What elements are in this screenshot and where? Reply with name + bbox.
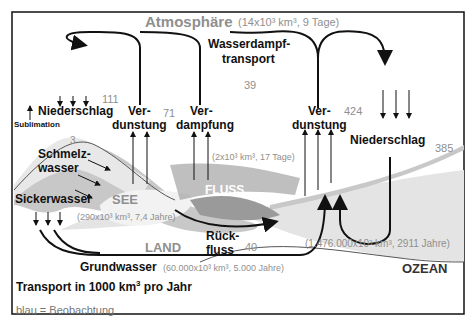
groundwater-stats: (60.000x10³ km³, 5.000 Jahre)	[163, 264, 284, 273]
lake-label: SEE	[112, 193, 138, 206]
return-flow-label-1: Rück-	[206, 230, 239, 242]
meltwater-label-1: Schmelz-	[38, 148, 91, 160]
ocean-label: OZEAN	[402, 262, 448, 275]
meltwater-label-2: wasser	[38, 162, 79, 174]
river-stats: (2x10³ km³, 17 Tage)	[212, 153, 295, 162]
evap-land-value: 71	[163, 108, 175, 119]
vapor-transport-label-1: Wasserdampf-	[208, 38, 290, 50]
return-flow-label-2: fluss	[206, 244, 234, 256]
ocean-stats: (1.476.000x10³ km³, 2911 Jahre)	[305, 239, 450, 249]
ocean-precip-label: Niederschlag	[350, 134, 425, 146]
evap-ocean-value: 424	[344, 106, 362, 117]
evap-land-label-2: dunstung	[112, 119, 167, 131]
return-flow-value: 40	[245, 242, 257, 253]
ocean-precip-value: 385	[435, 143, 453, 154]
transport-note: Transport in 1000 km3 pro Jahr	[16, 280, 192, 293]
lake-stats: (290x10³ km³, 7,4 Jahre)	[77, 213, 176, 222]
sublimation-value: 3	[70, 136, 76, 146]
atmosphere-title: Atmosphäre	[145, 14, 233, 29]
vaporization-label-1: Ver-	[190, 105, 213, 117]
legend-note: blau = Beobachtung	[16, 305, 114, 316]
seepage-label: Sickerwasser	[15, 193, 92, 205]
groundwater-label: Grundwasser	[80, 261, 157, 273]
vapor-transport-label-2: transport	[222, 53, 275, 65]
land-label: LAND	[145, 241, 181, 254]
evap-ocean-label-1: Ver-	[308, 105, 331, 117]
vapor-transport-value: 39	[244, 80, 256, 91]
vapor-arrow-left2	[140, 32, 200, 105]
evap-ocean-label-2: dunstung	[292, 119, 347, 131]
evap-land-label-1: Ver-	[128, 105, 151, 117]
river-label: FLUSS	[205, 184, 244, 196]
atmosphere-stats: (14x10³ km³, 9 Tage)	[238, 17, 339, 28]
land-precip-label: Niederschlag	[38, 105, 113, 117]
vapor-arrow-right2	[318, 31, 385, 62]
sublimation-label: Sublimation	[14, 121, 60, 129]
vaporization-label-2: dampfung	[176, 119, 234, 131]
